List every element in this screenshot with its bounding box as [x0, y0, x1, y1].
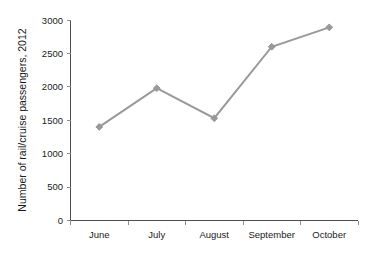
- y-tick-label-1500: 1500: [42, 115, 63, 126]
- x-tick-label-july: July: [148, 229, 165, 240]
- y-tick-label-1000: 1000: [42, 148, 63, 159]
- y-tick-label-500: 500: [47, 181, 63, 192]
- y-tick-label-2000: 2000: [42, 81, 63, 92]
- y-tick-label-3000: 3000: [42, 15, 63, 26]
- y-tick-label-2500: 2500: [42, 48, 63, 59]
- line-chart: Number of rail/cruise passengers, 2012 0…: [0, 0, 373, 255]
- chart-container: Number of rail/cruise passengers, 2012 0…: [0, 0, 373, 255]
- x-tick-label-september: September: [248, 229, 294, 240]
- x-tick-label-august: August: [199, 229, 229, 240]
- x-tick-label-october: October: [312, 229, 346, 240]
- y-tick-label-0: 0: [58, 215, 63, 226]
- chart-background: [0, 0, 373, 255]
- y-axis-title: Number of rail/cruise passengers, 2012: [16, 28, 28, 211]
- x-tick-label-june: June: [89, 229, 110, 240]
